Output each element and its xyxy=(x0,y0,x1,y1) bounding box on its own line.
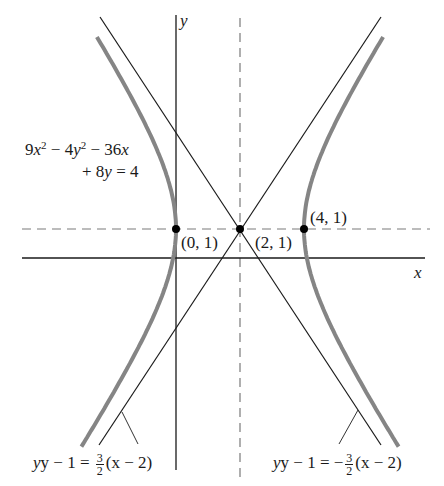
point-center xyxy=(236,225,244,233)
y-axis-label: y xyxy=(180,12,188,29)
equation-line-1: 9x2 − 4y2 − 36x xyxy=(25,141,129,158)
leader-line-right xyxy=(339,410,358,444)
hyperbola-right-branch xyxy=(304,37,399,447)
point-vertex-left xyxy=(172,225,180,233)
asymptote-label-positive: yy − 1 = 32(x − 2) xyxy=(33,452,152,477)
asymptote-label-negative: yy − 1 = −32(x − 2) xyxy=(273,452,402,477)
point-vertex-right xyxy=(300,225,308,233)
x-axis-label: x xyxy=(414,264,422,281)
leader-line-left xyxy=(122,412,138,444)
point-label-2-1: (2, 1) xyxy=(255,234,292,251)
point-label-0-1: (0, 1) xyxy=(181,234,218,251)
point-label-4-1: (4, 1) xyxy=(310,209,347,226)
hyperbola-left-branch xyxy=(81,37,176,447)
equation-line-2: + 8y = 4 xyxy=(82,163,138,180)
hyperbola-diagram xyxy=(0,0,444,486)
